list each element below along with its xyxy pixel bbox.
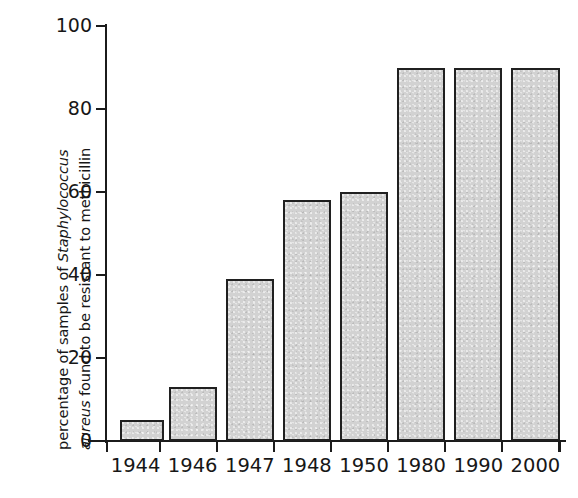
- bar-1950: [340, 192, 388, 441]
- x-axis-tick-after-1990: [501, 441, 503, 452]
- x-axis-tick-after-1947: [273, 441, 275, 452]
- y-axis-tick-80: [96, 108, 107, 110]
- bar-1980: [397, 68, 445, 442]
- bar-1947: [226, 279, 274, 441]
- bar-2000: [511, 68, 559, 442]
- x-axis-tick-after-1948: [330, 441, 332, 452]
- y-axis-tick-label-80: 80: [48, 99, 92, 118]
- x-axis-tick-after-1980: [444, 441, 446, 452]
- y-axis-tick-label-60: 60: [48, 182, 92, 201]
- y-axis-tick-label-100: 100: [48, 16, 92, 35]
- plot-area: [107, 26, 564, 441]
- bar-1946: [169, 387, 217, 441]
- bar-1948: [283, 200, 331, 441]
- y-axis-tick-label-20: 20: [48, 348, 92, 367]
- x-axis-label-2000: 2000: [501, 455, 570, 477]
- y-axis-tick-100: [96, 25, 107, 27]
- y-axis-tick-labels: 020406080100: [44, 0, 92, 498]
- x-axis-tick-after-1944: [159, 441, 161, 452]
- x-axis-tick-after-1946: [216, 441, 218, 452]
- bar-1990: [454, 68, 502, 442]
- bar-chart-figure: percentage of samples of Staphylococcus …: [0, 0, 578, 498]
- y-axis-tick-label-40: 40: [48, 265, 92, 284]
- y-axis-tick-20: [96, 357, 107, 359]
- bar-1944: [120, 420, 164, 441]
- x-axis-tick-origin: [106, 441, 108, 452]
- y-axis-tick-40: [96, 274, 107, 276]
- y-axis-tick-label-0: 0: [48, 431, 92, 450]
- y-axis-tick-60: [96, 191, 107, 193]
- x-axis-tick-after-1950: [387, 441, 389, 452]
- x-axis-tick-after-2000: [558, 441, 560, 452]
